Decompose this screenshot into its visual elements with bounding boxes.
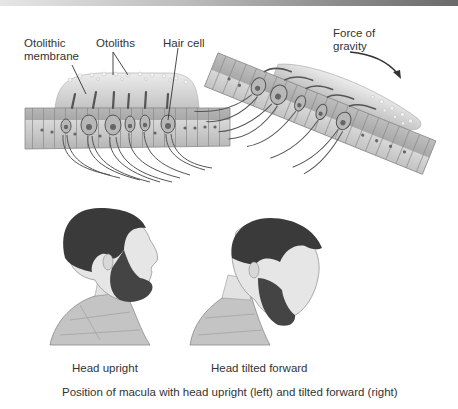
label-line: gravity xyxy=(333,40,367,52)
label-otoliths: Otoliths xyxy=(96,37,135,50)
label-line: Force of xyxy=(333,27,375,39)
label-line: Otolithic xyxy=(24,37,66,49)
head-upright-illustration xyxy=(50,208,158,345)
label-hair-cell: Hair cell xyxy=(163,37,205,50)
head-tilted-illustration xyxy=(190,218,322,345)
gravity-arrow-icon xyxy=(350,52,398,74)
label-line: membrane xyxy=(24,50,79,62)
label-force-of-gravity: Force of gravity xyxy=(333,27,393,53)
figure-caption: Position of macula with head upright (le… xyxy=(62,386,398,398)
caption-head-tilted: Head tilted forward xyxy=(211,362,308,374)
label-otolithic-membrane: Otolithic membrane xyxy=(24,37,94,63)
caption-head-upright: Head upright xyxy=(72,362,138,374)
upright-macula xyxy=(25,48,230,182)
